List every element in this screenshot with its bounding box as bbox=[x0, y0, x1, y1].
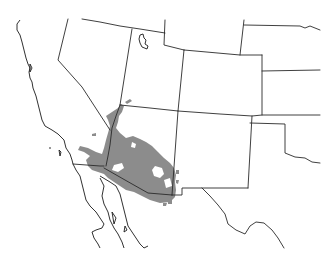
great-salt-lake bbox=[139, 34, 148, 49]
range-map bbox=[0, 0, 334, 262]
distribution-range bbox=[78, 99, 179, 206]
